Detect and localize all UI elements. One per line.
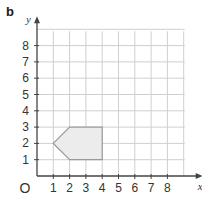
origin-label: O <box>20 180 31 196</box>
x-axis-arrow-icon <box>196 173 202 179</box>
x-tick-label: 7 <box>148 181 155 195</box>
y-tick-label: 7 <box>22 55 29 69</box>
y-tick-label: 3 <box>22 120 29 134</box>
y-tick-label: 1 <box>22 153 29 167</box>
y-axis-label: y <box>25 13 31 25</box>
x-tick-label: 8 <box>164 181 171 195</box>
x-tick-label: 2 <box>66 181 73 195</box>
y-tick-label: 5 <box>22 88 29 102</box>
coordinate-grid: 1234567812345678Oxy <box>0 0 202 200</box>
x-tick-label: 5 <box>115 181 122 195</box>
x-tick-label: 6 <box>131 181 138 195</box>
y-tick-label: 2 <box>22 136 29 150</box>
y-tick-label: 4 <box>22 104 29 118</box>
x-axis-label: x <box>197 180 202 192</box>
y-axis-arrow-icon <box>34 16 40 23</box>
x-tick-label: 3 <box>83 181 90 195</box>
x-tick-label: 4 <box>99 181 106 195</box>
x-tick-label: 1 <box>50 181 57 195</box>
shape-pentagon <box>53 127 102 160</box>
y-tick-label: 6 <box>22 71 29 85</box>
y-tick-label: 8 <box>22 39 29 53</box>
